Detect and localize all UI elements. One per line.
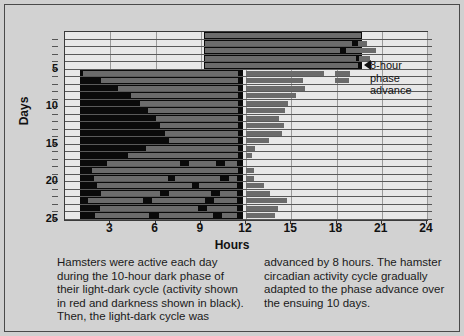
actogram-row: [65, 137, 427, 145]
activity-bar: [246, 71, 324, 76]
y-tick-right: [427, 99, 432, 100]
activity-bar: [131, 93, 238, 98]
y-tick-right: [427, 159, 432, 160]
activity-bar: [246, 86, 305, 91]
activity-bar: [140, 101, 238, 106]
actogram-row: [65, 32, 427, 40]
activity-bar: [205, 48, 339, 53]
activity-bar: [128, 153, 238, 158]
y-tick-label: 5: [36, 62, 58, 74]
activity-bar: [246, 198, 287, 203]
activity-bar: [169, 191, 211, 196]
y-tick-right: [427, 166, 432, 167]
y-tick-right: [427, 196, 432, 197]
activity-bar: [165, 131, 239, 136]
y-tick-right: [427, 144, 432, 145]
activity-bar: [246, 116, 279, 121]
actogram-row: [65, 182, 427, 190]
y-axis-ticks: [34, 0, 58, 336]
activity-bar: [246, 168, 254, 173]
y-tick-right: [427, 39, 432, 40]
activity-bar: [118, 86, 239, 91]
actogram-row: [65, 175, 427, 183]
activity-bar: [94, 176, 168, 181]
activity-bar: [83, 71, 238, 76]
y-tick-right: [427, 76, 432, 77]
y-tick: [52, 114, 58, 115]
actogram-row: [65, 145, 427, 153]
activity-bar: [205, 63, 357, 68]
activity-bar: [246, 131, 282, 136]
actogram-row: [65, 160, 427, 168]
activity-bar: [175, 176, 220, 181]
activity-bar: [156, 116, 239, 121]
activity-bar: [246, 183, 264, 188]
caption-right-line-3: adapted to the phase advance over: [264, 283, 457, 297]
x-tick-label: 12: [230, 221, 260, 235]
activity-bar: [189, 161, 216, 166]
activity-bar: [159, 213, 213, 218]
activity-bar: [246, 123, 284, 128]
x-tick-label: 21: [366, 221, 396, 235]
actogram-row: [65, 100, 427, 108]
actogram-row: [65, 130, 427, 138]
activity-bar: [246, 101, 288, 106]
activity-bar: [101, 78, 238, 83]
activity-bar: [100, 206, 198, 211]
caption-column-right: advanced by 8 hours. The hamstercircadia…: [264, 256, 457, 324]
y-tick: [52, 129, 58, 130]
y-tick-right: [427, 54, 432, 55]
y-tick-right: [427, 174, 432, 175]
activity-bar: [205, 56, 356, 61]
y-tick: [52, 54, 58, 55]
activity-bar: [107, 161, 179, 166]
y-tick-right: [427, 189, 432, 190]
y-tick: [52, 121, 58, 122]
y-tick-right: [427, 151, 432, 152]
y-tick: [52, 84, 58, 85]
activity-bar: [246, 153, 252, 158]
y-tick: [52, 166, 58, 167]
y-tick-right: [427, 114, 432, 115]
x-tick-label: 24: [411, 221, 441, 235]
y-tick: [52, 204, 58, 205]
caption-left-line-3: their light-dark cycle (activity shown: [57, 283, 250, 297]
activity-bar: [92, 168, 238, 173]
y-tick-right: [427, 121, 432, 122]
actogram-row: [65, 115, 427, 123]
activity-bar: [97, 183, 192, 188]
y-tick: [52, 39, 58, 40]
activity-bar: [101, 191, 160, 196]
x-tick-label: 9: [185, 221, 215, 235]
y-tick-label: 25: [36, 212, 58, 224]
actogram-row: [65, 197, 427, 205]
x-axis-label: Hours: [0, 238, 464, 252]
activity-bar: [335, 71, 350, 76]
y-tick-right: [427, 61, 432, 62]
y-axis-label: Days: [17, 81, 31, 141]
actogram-row: [65, 167, 427, 175]
x-tick-label: 6: [140, 221, 170, 235]
caption-column-left: Hamsters were active each dayduring the …: [57, 256, 250, 324]
activity-bar: [335, 78, 349, 83]
x-tick-label: 18: [321, 221, 351, 235]
activity-bar: [152, 198, 205, 203]
y-tick-right: [427, 204, 432, 205]
activity-bar: [246, 78, 303, 83]
activity-bar: [205, 33, 360, 38]
figure-caption: Hamsters were active each dayduring the …: [57, 256, 457, 324]
y-tick-right: [427, 91, 432, 92]
actogram-row: [65, 122, 427, 130]
phase-advance-annotation: 8-hour phase advance: [370, 59, 462, 97]
y-tick: [52, 196, 58, 197]
activity-bar: [199, 183, 237, 188]
activity-bar: [95, 213, 149, 218]
activity-bar: [246, 138, 269, 143]
actogram-row: [65, 152, 427, 160]
activity-bar: [214, 198, 237, 203]
activity-bar: [222, 213, 237, 218]
y-tick-right: [427, 69, 432, 70]
annotation-line-2: phase: [370, 72, 462, 85]
activity-bar: [205, 41, 351, 46]
activity-bar: [358, 41, 367, 46]
